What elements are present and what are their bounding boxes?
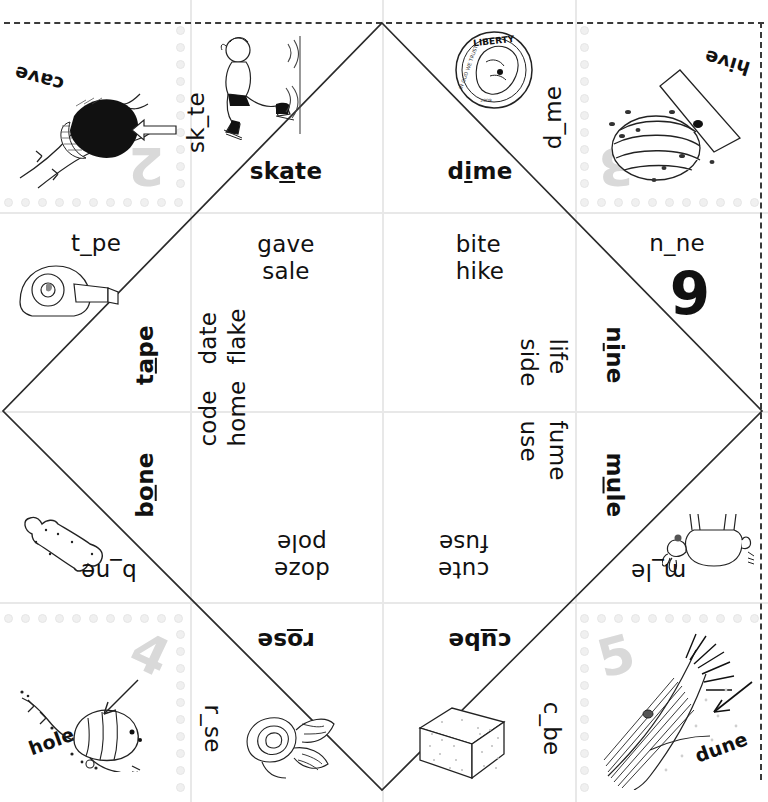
svg-text:9: 9 bbox=[670, 262, 710, 324]
word-hike: hike bbox=[456, 258, 504, 285]
flap-prompt-cube: c_be bbox=[532, 664, 572, 794]
wordlist-skate-pair: gave sale bbox=[196, 222, 376, 294]
cube-illustration bbox=[412, 700, 512, 782]
flap-answer-tape: tape bbox=[122, 300, 168, 410]
flap-answer-mule: mule bbox=[592, 430, 638, 540]
bone-vowel: o bbox=[132, 485, 158, 501]
mule-prefix: m bbox=[602, 452, 628, 476]
rose-illustration bbox=[232, 700, 338, 788]
word-fume: fume bbox=[543, 421, 570, 447]
number-nine-illustration: 9 bbox=[660, 262, 720, 324]
cave-illustration bbox=[12, 60, 182, 200]
mule-suffix: le bbox=[602, 493, 628, 517]
dot-strip-vertical-bl bbox=[176, 630, 185, 792]
bone-prefix: b bbox=[132, 501, 158, 518]
cube-prefix: c bbox=[498, 628, 512, 654]
flap-prompt-nine: n_ne bbox=[612, 224, 742, 264]
nine-vowel: i bbox=[602, 343, 628, 351]
word-side: side bbox=[514, 339, 541, 365]
corner-panel-top-right: 3 hive bbox=[576, 22, 766, 212]
word-gave: gave bbox=[257, 231, 314, 258]
dime-coin-illustration: LIBERTY IN GOD WE TRUST 2009 bbox=[452, 28, 536, 112]
bone-suffix: ne bbox=[132, 452, 158, 485]
word-date: date bbox=[195, 339, 222, 365]
word-flake: flake bbox=[224, 339, 251, 365]
cube-vowel: u bbox=[481, 628, 498, 654]
flap-answer-bone: bone bbox=[122, 430, 168, 540]
cube-suffix: be bbox=[448, 628, 481, 654]
word-sale: sale bbox=[257, 258, 314, 285]
wordlist-cube-pair: cute fuse bbox=[394, 520, 534, 592]
rose-suffix: se bbox=[257, 628, 287, 654]
word-bite: bite bbox=[456, 231, 504, 258]
word-doze: doze bbox=[274, 556, 330, 583]
wordlist-bone-pair: code home bbox=[196, 420, 274, 532]
grid-line-horizontal-1 bbox=[0, 212, 768, 214]
flap-answer-skate: skate bbox=[196, 148, 376, 194]
word-fuse: fuse bbox=[438, 529, 489, 556]
grid-line-vertical-2 bbox=[382, 0, 384, 802]
wordlist-rose-pair: doze pole bbox=[232, 520, 372, 592]
beehive-illustration bbox=[594, 52, 754, 192]
svg-text:2009: 2009 bbox=[480, 98, 492, 103]
dime-prefix: d bbox=[447, 158, 464, 184]
tape-vowel: a bbox=[132, 358, 158, 374]
corner-panel-bottom-right: 5 dune bbox=[576, 602, 766, 792]
flap-answer-rose: rose bbox=[196, 618, 376, 664]
sand-dune-illustration bbox=[586, 630, 756, 790]
wordlist-mule-pair: use fume bbox=[492, 420, 570, 532]
word-life: life bbox=[543, 339, 570, 365]
corner-panel-top-left: 2 cave bbox=[0, 22, 190, 212]
tape-dispenser-illustration bbox=[14, 258, 124, 326]
tape-suffix: pe bbox=[132, 325, 158, 358]
word-home: home bbox=[224, 421, 251, 447]
dot-strip-horizontal-bl bbox=[4, 614, 183, 623]
wordlist-nine-pair: side life bbox=[492, 296, 570, 408]
word-use: use bbox=[514, 421, 541, 447]
corner-panel-bottom-left: 4 hole bbox=[0, 602, 190, 792]
worm-in-hole-illustration bbox=[12, 662, 176, 772]
flap-prompt-rose: r_se bbox=[192, 664, 232, 794]
flap-prompt-bone: b_ne bbox=[46, 552, 172, 592]
rose-vowel: o bbox=[287, 628, 303, 654]
rose-prefix: r bbox=[303, 628, 315, 654]
mule-vowel: u bbox=[602, 477, 628, 494]
wordlist-dime-pair: bite hike bbox=[390, 222, 570, 294]
dot-strip-horizontal-tr bbox=[580, 198, 759, 207]
dime-suffix: me bbox=[472, 158, 512, 184]
flap-answer-dime: dime bbox=[390, 148, 570, 194]
flap-answer-nine: nine bbox=[592, 300, 638, 410]
grid-line-horizontal-2 bbox=[0, 411, 768, 413]
nine-prefix: n bbox=[602, 326, 628, 343]
skater-illustration bbox=[212, 30, 316, 140]
worksheet-sheet: 2 cave bbox=[0, 0, 768, 802]
nine-suffix: ne bbox=[602, 351, 628, 384]
flap-answer-cube: cube bbox=[390, 618, 570, 664]
word-pole: pole bbox=[274, 529, 330, 556]
word-code: code bbox=[195, 421, 222, 447]
flap-prompt-mule: m_le bbox=[596, 552, 722, 592]
dot-strip-vertical-tr bbox=[580, 26, 589, 188]
dot-strip-horizontal-br bbox=[580, 614, 759, 623]
skate-vowel: a bbox=[279, 158, 295, 184]
skate-suffix: te bbox=[295, 158, 322, 184]
tape-prefix: t bbox=[132, 374, 158, 385]
skate-prefix: sk bbox=[250, 158, 280, 184]
word-cute: cute bbox=[438, 556, 489, 583]
